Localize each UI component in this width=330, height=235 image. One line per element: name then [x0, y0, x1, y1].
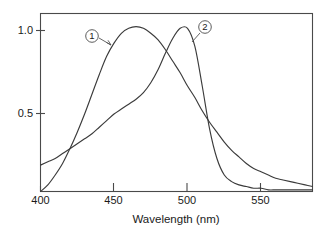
callout-1-arrowhead	[107, 40, 112, 45]
chart-figure: 1.0 0.5 400 450 500 550 Wavelength (nm) …	[0, 0, 330, 235]
plot-frame	[41, 14, 313, 192]
callout-series-1: 1	[86, 30, 111, 45]
x-tick-label-1: 450	[104, 194, 122, 206]
x-tick-label-0: 400	[31, 194, 49, 206]
x-axis-title: Wavelength (nm)	[132, 213, 219, 225]
curve-series-1	[41, 27, 313, 192]
callout-1-label: 1	[89, 30, 94, 41]
callout-2-leader	[192, 33, 200, 42]
y-tick-label-1: 1.0	[18, 24, 33, 36]
curve-series-2	[41, 27, 313, 190]
x-tick-label-2: 500	[178, 194, 196, 206]
y-tick-label-0: 0.5	[18, 107, 33, 119]
callout-series-2: 2	[192, 21, 211, 42]
spectra-line-chart: 1.0 0.5 400 450 500 550 Wavelength (nm) …	[0, 0, 330, 235]
x-tick-label-3: 550	[251, 194, 269, 206]
x-axis-ticks	[41, 183, 261, 192]
callout-2-label: 2	[202, 21, 207, 32]
